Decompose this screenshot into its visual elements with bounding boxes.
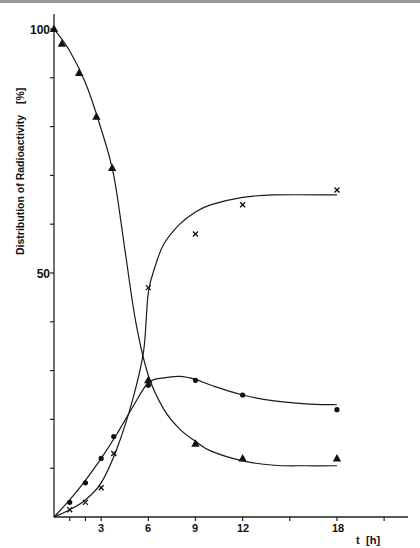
crosses-curve [54,195,337,517]
triangle-marker [333,454,341,462]
circle-marker [146,383,151,388]
x-axis-label: t [h] [356,534,380,546]
y-tick-label-50: 50 [37,267,51,281]
triangle-marker [92,112,100,120]
triangle-marker [50,25,58,33]
cross-marker [67,507,72,512]
triangle-marker [238,454,246,462]
circle-marker [99,456,104,461]
axes [54,14,408,517]
circle-marker [111,434,116,439]
x-tick-label-18: 18 [332,522,344,534]
x-tick-label-9: 9 [192,522,198,534]
series-markers [50,25,341,513]
cross-marker [240,202,245,207]
x-axis-label-unit: [h] [366,534,380,546]
x-tick-label-3: 3 [98,522,104,534]
circle-marker [67,500,72,505]
x-tick-label-12: 12 [237,522,249,534]
triangle-marker [108,164,116,172]
x-axis-label-t: t [356,534,360,546]
y-tick-label-100: 100 [30,23,50,37]
triangles-curve [54,29,337,466]
y-axis-label-text: Distribution of Radioactivity [14,115,26,255]
radioactivity-chart: 100 50 3 6 9 12 18 t [h] Distribution of… [0,0,420,548]
y-axis-label: Distribution of Radioactivity [%] [14,88,26,255]
cross-marker [334,188,339,193]
y-axis-label-unit: [%] [14,88,26,104]
x-tick-label-6: 6 [145,522,151,534]
circle-marker [83,480,88,485]
circle-marker [193,378,198,383]
triangle-marker [75,68,83,76]
triangle-marker [144,376,152,384]
circle-marker [240,392,245,397]
circle-marker [334,407,339,412]
cross-marker [99,485,104,490]
cross-marker [193,231,198,236]
